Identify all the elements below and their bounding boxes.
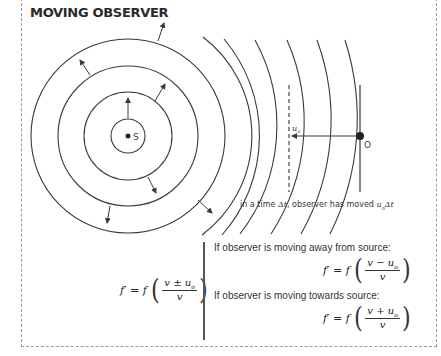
towards-label: If observer is moving towards source:: [214, 290, 380, 301]
equation-divider: [203, 242, 205, 340]
wavefront-diagram: S O uo: [0, 0, 441, 356]
source-label: S: [133, 132, 139, 142]
away-label: If observer is moving away from source:: [214, 242, 391, 253]
observer-label: O: [364, 140, 371, 150]
towards-equation: f′ = f ( v + uov ): [323, 304, 412, 332]
general-equation: f′ = f ( v ± uov ): [120, 276, 209, 304]
time-caption: in a time Δt, observer has moved uoΔt: [240, 200, 394, 211]
observer-point: [356, 132, 364, 140]
away-equation: f′ = f ( v − uov ): [323, 256, 412, 284]
source-point: [126, 134, 131, 139]
velocity-label: uo: [292, 124, 300, 134]
